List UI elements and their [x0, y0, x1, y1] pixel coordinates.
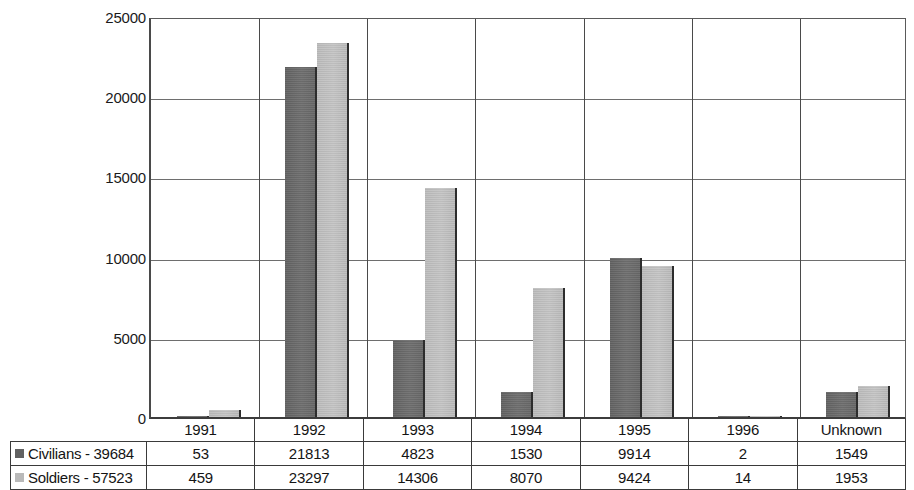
table-header-1993: 1993	[363, 419, 471, 442]
legend-swatch-icon	[15, 473, 24, 482]
legend-item-civilians[interactable]: Civilians - 39684	[11, 442, 147, 466]
bar-soldiers-1992	[317, 43, 349, 417]
plot-area	[149, 18, 906, 419]
table-cell-soldiers-unknown: 1953	[797, 466, 905, 490]
table-header-row: 199119921993199419951996Unknown	[11, 419, 906, 442]
table-cell-soldiers-1991: 459	[147, 466, 255, 490]
legend-item-soldiers[interactable]: Soldiers - 57523	[11, 466, 147, 490]
bar-group	[692, 19, 800, 417]
bar-group	[584, 19, 692, 417]
table-cell-soldiers-1995: 9424	[580, 466, 688, 490]
bar-civilians-unknown	[826, 392, 858, 417]
table-header-unknown: Unknown	[797, 419, 905, 442]
bar-soldiers-1993	[425, 188, 457, 417]
bar-civilians-1992	[285, 67, 317, 417]
y-axis-tick-label: 25000	[6, 9, 146, 26]
bar-soldiers-1996	[750, 416, 782, 417]
table-cell-soldiers-1992: 23297	[255, 466, 363, 490]
table-cell-civilians-unknown: 1549	[797, 442, 905, 466]
y-axis-tick-label: 5000	[6, 330, 146, 347]
table-row: Civilians - 3968453218134823153099142154…	[11, 442, 906, 466]
bar-group	[800, 19, 908, 417]
bar-group	[151, 19, 259, 417]
bar-civilians-1991	[177, 416, 209, 417]
data-table: 199119921993199419951996UnknownCivilians…	[10, 419, 906, 490]
table-cell-civilians-1992: 21813	[255, 442, 363, 466]
table-cell-civilians-1996: 2	[689, 442, 797, 466]
y-axis-tick-label: 10000	[6, 250, 146, 267]
table-cell-soldiers-1996: 14	[689, 466, 797, 490]
table-header-1994: 1994	[472, 419, 580, 442]
y-axis-tick-label: 20000	[6, 89, 146, 106]
table-header-1992: 1992	[255, 419, 363, 442]
table-header-1991: 1991	[147, 419, 255, 442]
table-header-1995: 1995	[580, 419, 688, 442]
table-corner-cell	[11, 419, 147, 442]
legend-swatch-icon	[15, 449, 24, 458]
bar-soldiers-1994	[533, 288, 565, 417]
table-cell-civilians-1993: 4823	[363, 442, 471, 466]
table-header-1996: 1996	[689, 419, 797, 442]
bar-group	[367, 19, 475, 417]
bar-soldiers-1991	[209, 410, 241, 417]
y-axis-tick-label: 15000	[6, 169, 146, 186]
table-cell-civilians-1995: 9914	[580, 442, 688, 466]
bar-group	[259, 19, 367, 417]
legend-label: Civilians - 39684	[28, 445, 134, 462]
bar-soldiers-1995	[642, 266, 674, 417]
bar-civilians-1996	[718, 416, 750, 417]
legend-label: Soldiers - 57523	[28, 469, 132, 486]
table-cell-soldiers-1993: 14306	[363, 466, 471, 490]
table-cell-soldiers-1994: 8070	[472, 466, 580, 490]
bar-soldiers-unknown	[858, 386, 890, 417]
bar-civilians-1993	[393, 340, 425, 417]
bar-civilians-1994	[501, 392, 533, 417]
y-axis: 0500010000150002000025000	[0, 0, 146, 440]
table-cell-civilians-1991: 53	[147, 442, 255, 466]
bar-group	[475, 19, 583, 417]
table-row: Soldiers - 57523459232971430680709424141…	[11, 466, 906, 490]
table-cell-civilians-1994: 1530	[472, 442, 580, 466]
bar-civilians-1995	[610, 258, 642, 417]
